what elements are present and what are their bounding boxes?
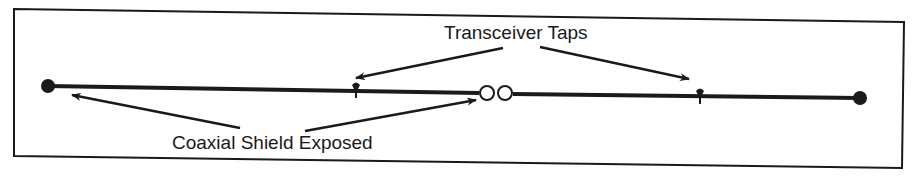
coaxial-shield-label: Coaxial Shield Exposed [172,132,373,153]
arrow-to-shield-right [305,100,476,131]
arrow-to-shield-left [72,95,240,128]
arrow-to-tap-left [356,48,503,78]
transceiver-taps-label: Transceiver Taps [444,22,588,43]
connector-circle-left-icon [480,86,494,100]
ethernet-coax-diagram: Transceiver Taps Coaxial Shield Exposed [0,0,923,177]
terminator-left-icon [41,79,55,93]
arrow-to-tap-right [540,47,689,79]
connector-circle-right-icon [498,86,512,100]
terminator-right-icon [853,91,867,105]
coax-cable-right [513,94,860,98]
coax-cable-left [48,86,479,93]
